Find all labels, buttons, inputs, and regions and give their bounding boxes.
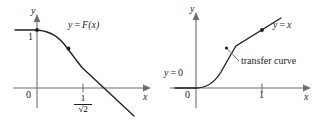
marker-at-origin-height: [35, 28, 39, 32]
cdf-curve-label: y=F(x): [68, 20, 99, 30]
zero-line-label-rhs: 0: [178, 67, 183, 78]
x-tick-fraction-1-over-sqrt2: 1 √2: [74, 94, 92, 115]
transfer-curve-annotation: transfer curve: [241, 56, 296, 66]
marker-on-curve: [67, 47, 71, 51]
marker-on-curve-lower: [225, 46, 228, 49]
fraction-numerator: 1: [74, 94, 92, 103]
cdf-panel: y x 1 0 y=F(x) 1 √2: [0, 0, 163, 124]
x-axis-label: x: [304, 92, 308, 102]
origin-label: 0: [185, 90, 190, 100]
x-axis-group: [13, 85, 151, 92]
y-axis-group: [193, 12, 200, 108]
y-axis-label: y: [190, 4, 194, 14]
identity-line-label-eq: =: [279, 19, 285, 30]
cdf-curve-label-lhs: y: [68, 19, 72, 30]
fraction-denominator: √2: [74, 105, 92, 114]
identity-line-label-rhs: x: [287, 19, 291, 30]
y-tick-label-1: 1: [28, 32, 33, 42]
marker-on-curve-upper: [260, 28, 264, 32]
zero-line-label-lhs: y: [164, 67, 168, 78]
y-axis-label: y: [31, 6, 35, 16]
zero-line-label-eq: =: [170, 67, 176, 78]
transfer-curve: [175, 18, 281, 88]
cdf-curve-label-eq: =: [74, 19, 80, 30]
figure-container: y x 1 0 y=F(x) 1 √2: [0, 0, 325, 124]
x-axis-label: x: [143, 92, 147, 102]
radicand: 2: [83, 104, 87, 114]
x-tick-label-1: 1: [259, 90, 264, 100]
cdf-curve-label-arg: (x): [88, 19, 99, 30]
transfer-curve-panel: y x 0 1 y=0 y=x transfer curve: [163, 0, 325, 124]
identity-line-label: y=x: [273, 20, 292, 30]
origin-label: 0: [26, 90, 31, 100]
identity-line-label-lhs: y: [273, 19, 277, 30]
zero-line-label: y=0: [164, 68, 183, 78]
